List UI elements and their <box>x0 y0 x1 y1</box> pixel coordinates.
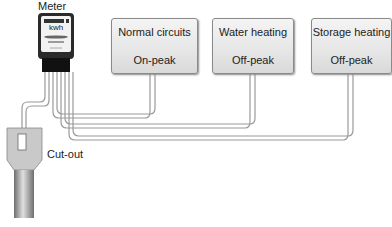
cutout-label: Cut-out <box>47 148 83 160</box>
meter <box>38 13 74 72</box>
meter-unit: kwh <box>49 23 63 32</box>
circuit-box-normal: Normal circuits On-peak <box>111 18 198 74</box>
wires <box>22 72 353 140</box>
meter-label: Meter <box>38 0 66 12</box>
circuit-tariff: Off-peak <box>213 54 293 66</box>
circuit-tariff: Off-peak <box>312 54 391 66</box>
circuit-name: Water heating <box>213 26 293 38</box>
circuit-box-storage: Storage heating Off-peak <box>311 18 392 74</box>
circuit-tariff: On-peak <box>112 54 197 66</box>
cutout <box>7 128 42 218</box>
circuit-name: Normal circuits <box>112 26 197 38</box>
circuit-name: Storage heating <box>312 26 391 38</box>
circuit-box-water: Water heating Off-peak <box>212 18 294 74</box>
